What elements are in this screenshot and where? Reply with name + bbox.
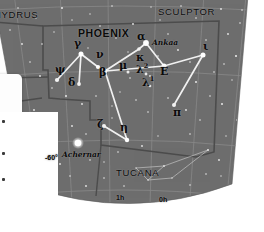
overlay-tick-3 — [2, 178, 5, 181]
star-chart-root: PHOENIX HYDRUS SCULPTOR TUCANA Ankaa Ach… — [0, 0, 264, 232]
left-overlay-panel-extension — [0, 112, 58, 232]
achernar-star — [72, 137, 84, 149]
overlay-tick-2 — [2, 152, 5, 155]
overlay-tick-1 — [2, 120, 5, 123]
